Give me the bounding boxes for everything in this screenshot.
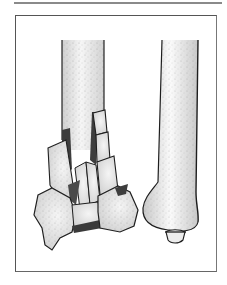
fractured-bone [34, 40, 138, 250]
normal-bone [143, 40, 199, 243]
bone-illustration [0, 0, 227, 285]
